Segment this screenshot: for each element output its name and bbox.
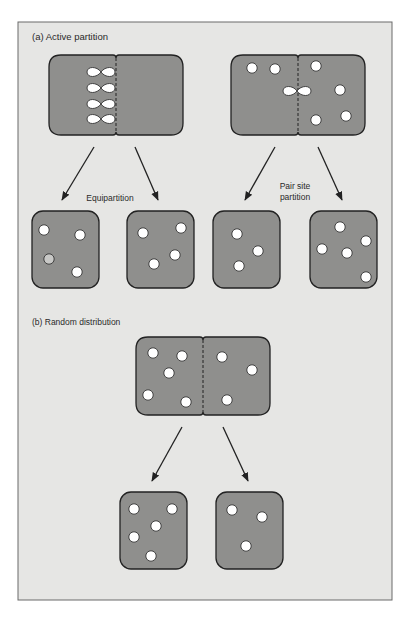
organelle-dot [335,85,345,95]
organelle-dot [138,228,148,238]
organelle-dot [317,244,327,254]
organelle-dot [270,64,280,74]
b-daughter-left [120,492,187,569]
b-random-parent [136,337,270,415]
organelle-dot [129,532,139,542]
a-equipartition-parent [49,55,183,135]
organelle-dot [164,368,174,378]
cell-body [32,211,99,288]
organelle-dot [361,272,371,282]
pair-site-caption-line2: partition [280,192,311,202]
cell-partition-diagram: (a) Active partition Equipartition Pair … [0,0,408,618]
b-daughter-right [216,492,283,569]
organelle-dot [181,397,191,407]
organelle-dot [241,541,251,551]
section-a-title: (a) Active partition [32,31,108,42]
a-pair-daughter-left [213,211,280,288]
organelle-dot [72,267,82,277]
a-equi-daughter-left [32,211,99,288]
organelle-dot [176,223,186,233]
organelle-dot [257,512,267,522]
organelle-dot [217,352,227,362]
organelle-dot [170,250,180,260]
a-pair-daughter-right [310,211,377,288]
organelle-dot [247,365,257,375]
organelle-dot [148,348,158,358]
organelle-dot [44,254,54,264]
organelle-dot [149,259,159,269]
cell-body [127,211,194,288]
organelle-dot [247,63,257,73]
organelle-dot [222,395,232,405]
organelle-dot [227,505,237,515]
organelle-dot [342,248,352,258]
organelle-dot [311,61,321,71]
organelle-dot [39,225,49,235]
organelle-dot [253,246,263,256]
cell-body [216,492,283,569]
a-pairsite-parent [231,55,365,135]
section-b-title: (b) Random distribution [32,317,121,327]
a-equi-daughter-right [127,211,194,288]
organelle-dot [361,236,371,246]
organelle-dot [151,521,161,531]
organelle-dot [75,230,85,240]
organelle-dot [335,222,345,232]
cell-body [213,211,280,288]
organelle-dot [143,390,153,400]
organelle-dot [177,351,187,361]
organelle-dot [232,229,242,239]
pair-site-caption-line1: Pair site [280,181,311,191]
organelle-dot [341,111,351,121]
organelle-dot [146,551,156,561]
equipartition-caption: Equipartition [86,193,134,203]
organelle-dot [234,261,244,271]
organelle-dot [311,115,321,125]
organelle-dot [167,504,177,514]
organelle-dot [129,504,139,514]
